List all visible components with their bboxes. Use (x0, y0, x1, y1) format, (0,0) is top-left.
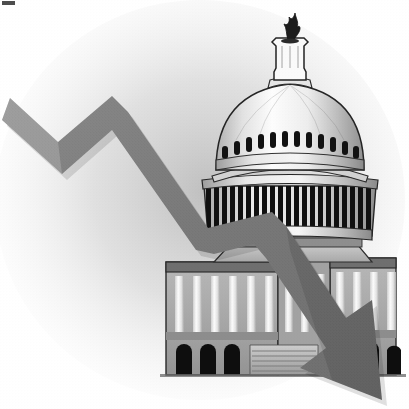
illustration-canvas (0, 0, 409, 409)
capitol-decline-illustration: U.S. Capitol with Downward Trending Arro… (0, 0, 409, 409)
global-halftone-overlay (0, 0, 409, 409)
